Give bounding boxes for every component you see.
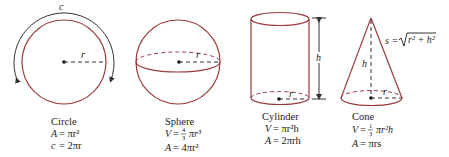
sphere-equator-front [136, 62, 220, 72]
cone-radius-label: r [383, 86, 387, 97]
circle-formula-circumference-rhs: = 2πr [59, 140, 82, 151]
geometry-formulas-figure: c r Circle A = πr² c = 2πr r Sphere V = … [0, 0, 449, 157]
cone-volume-frac-den: 3 [369, 130, 372, 137]
cone-name: Cone [352, 111, 375, 122]
cylinder-radius-label: r [289, 88, 293, 99]
sphere-formula-area-rhs: = 4πr² [173, 142, 199, 153]
circle-formula-area-lhs: A [50, 128, 58, 139]
sphere-formula-volume-lhs: V [165, 128, 173, 139]
cone-formula-volume-lhs: V [352, 124, 360, 135]
sphere-formula-area-lhs: A [164, 142, 172, 153]
circumference-label: c [59, 1, 64, 12]
svg-text:=: = [173, 128, 179, 139]
cone-slant-lhs: s = [385, 35, 398, 46]
sphere-volume-after-frac: πr³ [189, 128, 202, 139]
sphere-equator-back [136, 52, 220, 62]
cylinder-bottom-back [251, 92, 309, 99]
circle-formula-area-rhs: = πr² [59, 128, 80, 139]
svg-text:=: = [360, 124, 366, 135]
sphere-radius-label: r [196, 49, 200, 60]
cylinder-top-ellipse [251, 13, 309, 26]
cylinder-formula-volume-rhs: = πr²h [273, 123, 299, 134]
sphere-name: Sphere [165, 116, 194, 127]
circumference-arc-icon [14, 13, 114, 80]
circle-formula-circumference-lhs: c [51, 140, 56, 151]
cone-volume-frac-num: 1 [369, 122, 372, 129]
cylinder-formula-volume-lhs: V [265, 123, 273, 134]
sphere-volume-frac-num: 4 [182, 126, 186, 133]
cone-formula-area-lhs: A [351, 138, 359, 149]
cylinder-name: Cylinder [262, 111, 299, 122]
circle-name: Circle [51, 116, 77, 127]
cone-height-label: h [362, 58, 367, 69]
cone-slant-radicand: r² + h² [408, 34, 436, 45]
cone-formula-area-rhs: = πrs [360, 138, 381, 149]
circle-radius-label: r [81, 49, 85, 60]
cylinder-formula-area-rhs: = 2πrh [273, 135, 302, 146]
cylinder-height-label: h [316, 52, 321, 63]
circle-figure: c r Circle A = πr² c = 2πr [14, 1, 114, 151]
cone-figure: h r s = r² + h² Cone V = 1 3 πr²h A = πr… [341, 18, 436, 149]
cone-volume-after-frac: πr²h [376, 124, 393, 135]
cylinder-formula-area-lhs: A [264, 135, 272, 146]
sphere-figure: r Sphere V = 4 3 πr³ A = 4πr² [136, 20, 220, 153]
cylinder-figure: r h Cylinder V = πr²h A = 2πrh [251, 13, 326, 147]
sphere-volume-frac-den: 3 [182, 134, 185, 141]
